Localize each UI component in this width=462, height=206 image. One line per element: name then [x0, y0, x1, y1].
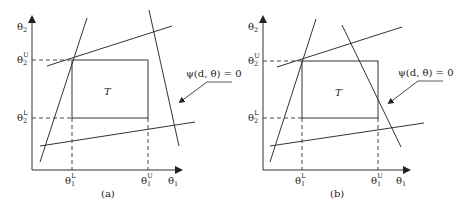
- psi-annotation: ψ(d, θ) = 0: [186, 68, 242, 79]
- tick-y-upper: θ2U: [248, 52, 260, 68]
- constraint-line-lower: [270, 123, 424, 146]
- y-axis-label: θ2: [248, 21, 258, 34]
- figure-canvas: T θ2 θ2U θ2L θ1L θ1U θ1 ψ(d, θ) = 0 (a): [0, 0, 462, 206]
- tick-x-lower: θ1L: [295, 172, 306, 188]
- tick-y-lower: θ2L: [17, 109, 28, 125]
- tick-x-lower: θ1L: [65, 172, 76, 188]
- annotation-arrow: [389, 81, 418, 103]
- constraint-line-cutting: [342, 25, 401, 147]
- caption-a: (a): [101, 188, 115, 199]
- x-axis-label: θ1: [396, 175, 406, 188]
- constraint-line-steep-left: [40, 18, 87, 162]
- caption-b: (b): [330, 188, 344, 199]
- region-T-label: T: [335, 87, 343, 98]
- constraint-line-lower: [40, 122, 195, 146]
- panel-a: T θ2 θ2U θ2L θ1L θ1U θ1 ψ(d, θ) = 0 (a): [17, 10, 242, 199]
- tick-y-upper: θ2U: [17, 51, 29, 67]
- x-axis-label: θ1: [168, 175, 178, 188]
- tick-x-upper: θ1U: [141, 172, 153, 188]
- tick-x-upper: θ1U: [371, 172, 383, 188]
- annotation-arrow: [180, 82, 207, 102]
- psi-annotation: ψ(d, θ) = 0: [398, 67, 454, 78]
- constraint-line-steep-right: [149, 10, 179, 146]
- y-axis-label: θ2: [17, 21, 27, 34]
- panel-b: T θ2 θ2U θ2L θ1L θ1U θ1 ψ(d, θ) = 0 (b): [248, 17, 454, 199]
- region-T-label: T: [104, 86, 112, 97]
- tick-y-lower: θ2L: [248, 109, 259, 125]
